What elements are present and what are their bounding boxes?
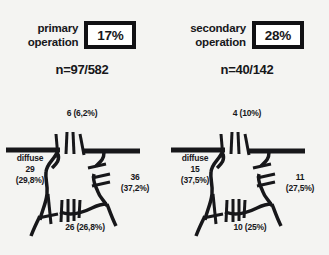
operation-type-line1: secondary — [190, 22, 246, 34]
hatch-left-vertical — [213, 194, 216, 224]
panel-secondary-operation: secondary operation 28% n=40/142 4 (10%)… — [165, 0, 329, 255]
hatch-right-1 — [253, 164, 271, 168]
hatch-cardia-2 — [66, 132, 67, 154]
hatch-cardia-3 — [73, 132, 74, 154]
hatch-cardia-4 — [245, 134, 249, 155]
hatch-right-1 — [88, 164, 106, 168]
operation-type-line1: primary — [38, 22, 79, 34]
hatch-left-vertical — [48, 194, 51, 224]
contour-right-lower — [93, 174, 107, 206]
n-value: n=97/582 — [0, 62, 164, 77]
operation-type-label: secondary operation — [190, 21, 252, 49]
hatch-bottom-4 — [244, 200, 245, 218]
operation-type-line2: operation — [28, 35, 79, 49]
stomach-diagram-svg — [0, 124, 164, 240]
label-top-region: 4 (10%) — [165, 108, 329, 119]
figure-root: primary operation 17% n=97/582 6 (6,2%) … — [0, 0, 329, 255]
stomach-diagram-svg — [165, 124, 329, 240]
panel-header: secondary operation 28% — [165, 12, 329, 58]
panel-header: primary operation 17% — [0, 12, 164, 58]
hatch-bottom-1 — [226, 200, 227, 222]
contour-right-tail — [272, 204, 281, 226]
hatch-cardia-2 — [231, 132, 232, 154]
hatch-cardia-3 — [238, 132, 239, 154]
stomach-diagram — [0, 124, 164, 240]
contour-right-tail — [107, 204, 116, 226]
percent-value: 28% — [265, 28, 291, 43]
hatch-bottom-1 — [61, 200, 62, 222]
hatch-cardia-4 — [80, 134, 84, 155]
percent-box: 17% — [84, 21, 136, 49]
n-value: n=40/142 — [165, 62, 329, 77]
percent-box: 28% — [252, 21, 304, 49]
panel-primary-operation: primary operation 17% n=97/582 6 (6,2%) … — [0, 0, 164, 255]
hatch-bottom-4 — [79, 200, 80, 218]
contour-right-lower — [258, 174, 272, 206]
operation-type-line2: operation — [190, 35, 246, 49]
operation-type-label: primary operation — [28, 21, 85, 49]
stomach-diagram — [165, 124, 329, 240]
percent-value: 17% — [97, 28, 123, 43]
label-top-region: 6 (6,2%) — [0, 108, 164, 119]
